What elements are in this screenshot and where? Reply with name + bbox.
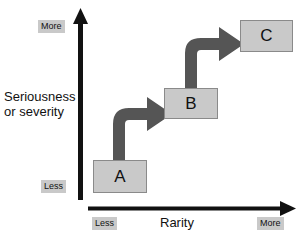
x-axis-title: Rarity [160, 215, 194, 230]
x-axis-arrowhead-icon [280, 201, 296, 216]
stage-box-c[interactable]: C [240, 20, 293, 52]
stage-box-b[interactable]: B [164, 88, 218, 119]
y-axis-title-line2: or severity [4, 104, 76, 119]
x-axis-high-label: More [257, 217, 284, 230]
arrow-b-to-c-icon [185, 27, 244, 88]
x-axis [88, 201, 296, 216]
stage-box-b-label: B [185, 94, 196, 114]
y-axis-high-label: More [38, 20, 65, 33]
y-axis-low-label: Less [41, 180, 66, 193]
stage-box-a-label: A [114, 167, 125, 187]
stage-box-c-label: C [260, 26, 272, 46]
diagram-canvas: A B C More Less Less More Seriousness or… [0, 0, 301, 240]
y-axis-title: Seriousness or severity [4, 89, 76, 119]
stage-box-a[interactable]: A [93, 160, 147, 193]
y-axis-title-line1: Seriousness [4, 89, 76, 104]
x-axis-low-label: Less [92, 217, 117, 230]
y-axis-arrowhead-icon [73, 8, 88, 24]
